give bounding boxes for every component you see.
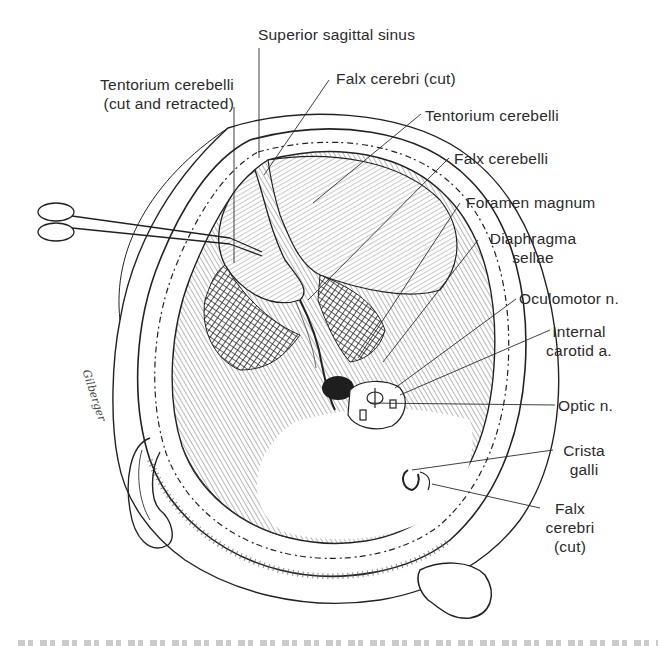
label-diaphragma-line2: sellae [478, 248, 588, 267]
label-optic-nerve: Optic n. [558, 396, 613, 415]
label-falx-cerebelli: Falx cerebelli [454, 149, 548, 168]
label-tentorium-cut-line2: (cut and retracted) [62, 94, 234, 113]
label-falx-bottom-line1: Falx [530, 499, 610, 518]
label-foramen-magnum: Foramen magnum [466, 193, 595, 212]
label-diaphragma-line1: Diaphragma [478, 229, 588, 248]
label-oculomotor: Oculomotor n. [519, 289, 619, 308]
label-tentorium-cut-line1: Tentorium cerebelli [62, 75, 234, 94]
anatomy-illustration: Superior sagittal sinus Tentorium cerebe… [0, 0, 668, 646]
label-tentorium-cerebelli: Tentorium cerebelli [425, 106, 559, 125]
label-internal-carotid-line2: carotid a. [534, 341, 624, 360]
label-crista-line1: Crista [548, 441, 620, 460]
sella-turcica [348, 381, 405, 428]
caption-text-fragment [18, 640, 658, 646]
label-internal-carotid-line1: Internal [534, 322, 624, 341]
nose-outline [418, 563, 491, 618]
label-superior-sagittal-sinus: Superior sagittal sinus [258, 25, 415, 44]
label-falx-cerebri-cut: Falx cerebri (cut) [336, 69, 456, 88]
label-falx-bottom-line3: (cut) [530, 537, 610, 556]
label-crista-line2: galli [548, 460, 620, 479]
label-falx-bottom-line2: cerebri [530, 518, 610, 537]
cropped-caption [0, 636, 668, 646]
